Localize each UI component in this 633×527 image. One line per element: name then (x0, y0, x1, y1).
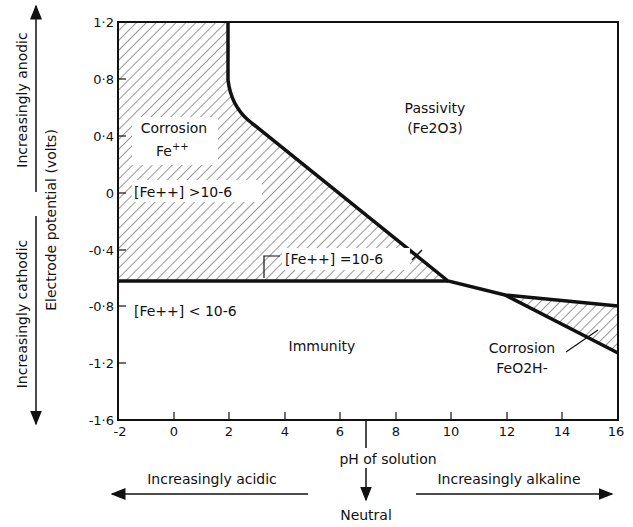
x-tick: 14 (554, 424, 571, 439)
pourbaix-diagram: 1·2 0·8 0·4 0 -0·4 -0·8 -1·2 -1·6 -2 0 2… (0, 0, 633, 527)
x-tick: 16 (608, 424, 625, 439)
x-axis (174, 412, 562, 420)
y-tick: 0 (106, 186, 114, 201)
passivity-species: (Fe2O3) (407, 120, 463, 136)
neutral-label: Neutral (340, 507, 392, 523)
y-tick: 0·4 (93, 129, 114, 144)
x-tick: 4 (281, 424, 289, 439)
anodic-label: Increasingly anodic (14, 32, 30, 167)
x-tick: 2 (225, 424, 233, 439)
acidic-label: Increasingly acidic (147, 471, 277, 487)
x-tick: 10 (443, 424, 460, 439)
x-tick: 12 (499, 424, 516, 439)
y-tick: 1·2 (93, 15, 114, 30)
corrosion-feo2h-species: FeO2H- (496, 360, 547, 376)
alkaline-label: Increasingly alkaline (437, 471, 580, 487)
y-tick: -1·6 (89, 413, 114, 428)
x-tick: -2 (114, 424, 127, 439)
cathodic-label: Increasingly cathodic (14, 240, 30, 389)
y-tick: -0·4 (89, 243, 114, 258)
corrosion-feo2h-title: Corrosion (489, 340, 556, 356)
corrosion-fe-title: Corrosion (141, 120, 208, 136)
y-tick: -1·2 (89, 356, 114, 371)
passivity-title: Passivity (405, 100, 466, 116)
y-tick: 0·8 (93, 72, 114, 87)
x-tick: 8 (392, 424, 400, 439)
x-tick: 0 (170, 424, 178, 439)
x-axis-label: pH of solution (339, 451, 436, 467)
y-axis-label: Electrode potential (volts) (43, 129, 59, 311)
fe-gt-label: [Fe++] >10-6 (134, 184, 232, 200)
immunity-label: Immunity (289, 338, 356, 354)
fe-lt-label: [Fe++] < 10-6 (134, 303, 237, 319)
x-tick: 6 (336, 424, 344, 439)
y-tick: -0·8 (89, 299, 114, 314)
fe-eq-label: [Fe++] =10-6 (285, 251, 383, 267)
